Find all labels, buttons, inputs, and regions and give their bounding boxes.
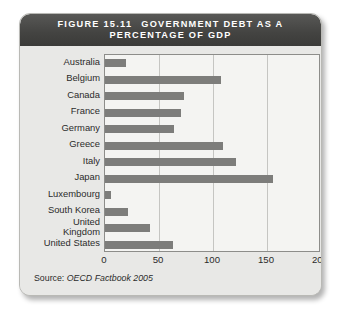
category-axis-labels: AustraliaBelgiumCanadaFranceGermanyGreec… [20,54,100,252]
category-label: Greece [20,139,100,150]
category-label: Canada [20,90,100,101]
x-tick-label: 100 [204,254,220,265]
category-label: Belgium [20,73,100,84]
x-tick-label: 200 [312,254,322,265]
figure-panel: FIGURE 15.11GOVERNMENT DEBT AS A PERCENT… [19,13,322,296]
figure-header: FIGURE 15.11GOVERNMENT DEBT AS A PERCENT… [20,14,321,46]
figure-title-line-2: PERCENTAGE OF GDP [58,30,284,42]
source-prefix: Source: [34,273,64,283]
figure-title-line-1: GOVERNMENT DEBT AS A [141,19,283,29]
bar [105,191,111,199]
value-axis-labels: 050100150200 [104,254,320,270]
bar [105,208,128,216]
category-label: Australia [20,57,100,68]
bar [105,109,181,117]
source-title: OECD Factbook 2005 [67,273,153,283]
category-label: United Kingdom [20,217,100,238]
gridline-200 [321,55,322,251]
bar [105,76,221,84]
bar [105,142,223,150]
bar [105,241,173,249]
bar [105,224,150,232]
bars-layer [105,55,319,251]
bar [105,125,174,133]
category-label: United States [20,238,100,249]
bar [105,158,236,166]
chart-body: AustraliaBelgiumCanadaFranceGermanyGreec… [20,46,321,295]
x-tick-label: 150 [258,254,274,265]
category-label: Germany [20,123,100,134]
figure-number: FIGURE 15.11 [58,19,133,29]
source-note: Source: OECD Factbook 2005 [34,273,153,283]
category-label: Italy [20,156,100,167]
category-label: Japan [20,172,100,183]
category-label: Luxembourg [20,189,100,200]
bar [105,175,273,183]
figure-header-line-1: FIGURE 15.11GOVERNMENT DEBT AS A [58,19,284,31]
category-label: South Korea [20,205,100,216]
x-tick-label: 50 [153,254,164,265]
bar [105,92,184,100]
x-tick-label: 0 [101,254,106,265]
plot-area [104,54,320,252]
figure-header-text: FIGURE 15.11GOVERNMENT DEBT AS A PERCENT… [58,19,284,42]
category-label: France [20,106,100,117]
bar [105,59,126,67]
